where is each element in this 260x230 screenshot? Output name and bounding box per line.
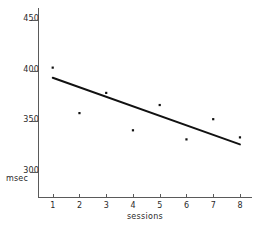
data-point [52, 67, 54, 69]
scatter-plot-figure: 300350400450 12345678 msec sessions [0, 0, 260, 230]
plot-area [0, 0, 260, 230]
data-point [159, 104, 161, 106]
data-point [78, 112, 80, 114]
data-point [132, 129, 134, 131]
data-point [212, 118, 214, 120]
data-point [239, 136, 241, 138]
data-point [185, 138, 187, 140]
data-point [105, 92, 107, 94]
data-point-group [52, 67, 241, 141]
regression-line [53, 78, 240, 145]
